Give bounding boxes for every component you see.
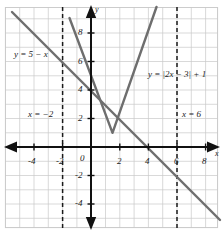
y-tick-label-neg2: -2 (75, 171, 83, 180)
y-tick-label-neg4: -4 (75, 199, 83, 208)
x-tick-label-zero: 0 (80, 154, 85, 163)
x-tick-label-neg2: -2 (56, 157, 64, 166)
y-tick-label-2: 2 (78, 114, 83, 123)
annotation-absolute-value-equation: y = |2x − 3| + 1 (148, 70, 206, 79)
y-tick-label-6: 6 (78, 57, 83, 66)
x-tick-label-8: 8 (202, 157, 207, 166)
y-tick-label-8: 8 (78, 28, 83, 37)
annotation-vertical-line-right: x = 6 (182, 110, 201, 119)
x-tick-label-2: 2 (117, 157, 122, 166)
graph-figure: -4 -2 0 2 4 6 8 8 6 4 2 -2 -4 y x y = 5 … (0, 0, 223, 231)
x-tick-label-6: 6 (174, 157, 179, 166)
annotation-vertical-line-left: x = −2 (28, 110, 53, 119)
y-tick-label-4: 4 (78, 85, 83, 94)
y-axis-name: y (95, 6, 99, 14)
x-axis-name: x (215, 150, 219, 158)
x-tick-label-neg4: -4 (28, 157, 36, 166)
annotation-linear-equation: y = 5 − x (14, 50, 48, 59)
x-tick-label-4: 4 (145, 157, 150, 166)
